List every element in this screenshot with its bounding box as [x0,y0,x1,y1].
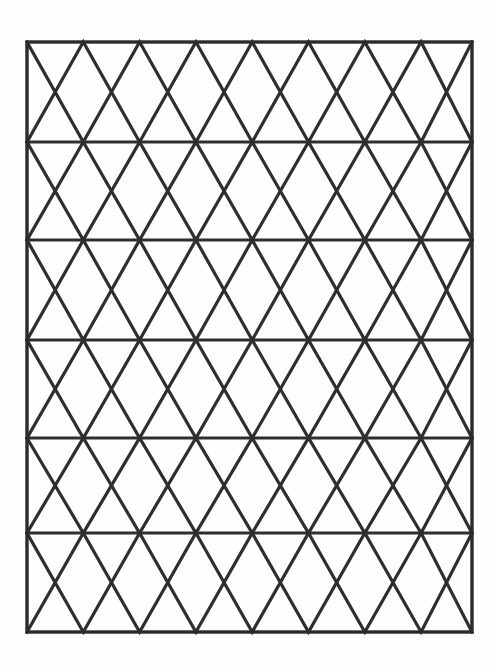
zigzag-band-5-down [27,533,472,632]
zigzag-diagonals-group [27,42,472,632]
figure-root [0,0,493,667]
zigzag-band-1-down [27,142,472,240]
zigzag-band-2-down [27,240,472,340]
zigzag-band-0-up [27,42,472,142]
zigzag-band-3-down [27,340,472,438]
lattice-diagram [0,0,493,667]
zigzag-band-2-up [27,240,472,340]
zigzag-band-4-up [27,438,472,533]
zigzag-band-0-down [27,42,472,142]
zigzag-band-4-down [27,438,472,533]
zigzag-band-1-up [27,142,472,240]
zigzag-band-3-up [27,340,472,438]
zigzag-band-5-up [27,533,472,632]
